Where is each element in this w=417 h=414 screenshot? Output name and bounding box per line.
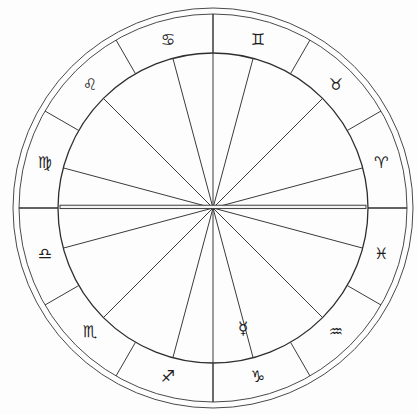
- planet-glyphs: ☿: [238, 318, 248, 338]
- zodiac-glyph-virgo: ♍: [38, 153, 52, 172]
- zodiac-cusp-line: [347, 286, 381, 306]
- house-spoke: [173, 58, 213, 208]
- house-spoke: [213, 208, 363, 248]
- house-spoke: [103, 98, 213, 208]
- house-spoke: [63, 208, 213, 248]
- zodiac-cusp-line: [116, 342, 136, 376]
- house-spoke: [213, 58, 253, 208]
- house-spoke: [213, 168, 363, 208]
- zodiac-glyph-taurus: ♉: [329, 75, 343, 94]
- zodiac-glyph-leo: ♌: [83, 75, 97, 94]
- zodiac-glyph-pisces: ♓: [374, 244, 388, 263]
- zodiac-glyph-libra: ♎: [38, 244, 52, 263]
- house-spoke: [103, 208, 213, 318]
- zodiac-glyph-scorpio: ♏: [83, 322, 97, 341]
- ascendant-descendant-axis: [60, 205, 366, 208]
- zodiac-glyph-gemini: ♊: [251, 30, 265, 49]
- house-spoke: [213, 208, 323, 318]
- zodiac-glyph-sagittarius: ♐: [161, 367, 175, 386]
- zodiac-glyph-capricorn: ♑: [251, 367, 265, 386]
- zodiac-cusp-line: [45, 286, 79, 306]
- zodiac-glyph-cancer: ♋: [161, 30, 175, 49]
- zodiac-cusp-line: [347, 111, 381, 131]
- house-spoke: [213, 98, 323, 208]
- astrology-chart-wheel: ♑♐♏♎♍♌♋♊♉♈♓♒ ☿: [0, 0, 417, 414]
- zodiac-cusp-line: [116, 40, 136, 74]
- house-spoke: [173, 208, 213, 358]
- zodiac-cusp-line: [45, 111, 79, 131]
- zodiac-glyph-aries: ♈: [374, 153, 388, 172]
- house-spoke: [63, 168, 213, 208]
- zodiac-wheel-svg: ♑♐♏♎♍♌♋♊♉♈♓♒ ☿: [0, 0, 417, 414]
- zodiac-cusp-line: [291, 342, 311, 376]
- zodiac-cusp-line: [291, 40, 311, 74]
- zodiac-glyph-aquarius: ♒: [329, 322, 343, 341]
- planet-glyph-mercury: ☿: [238, 318, 248, 338]
